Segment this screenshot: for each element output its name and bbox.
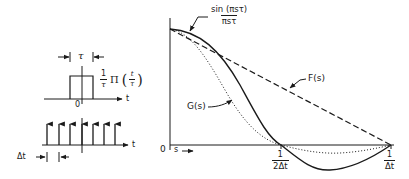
sinc-curve: [170, 29, 391, 153]
impulse-train-graph: [36, 118, 128, 162]
tick-full-numerator: 1: [386, 150, 393, 160]
G-label: G(s): [187, 102, 206, 111]
spectrum-origin-label: 0: [160, 145, 166, 154]
sinc-label-numerator: sin (πsτ): [210, 5, 248, 15]
sinc-label-denominator: πsτ: [221, 15, 238, 26]
rect-pulse-function-label: 1 τ Π ( t τ ): [100, 70, 143, 89]
pi-rect-symbol: Π: [110, 75, 119, 85]
rect-pulse-t-label: t: [126, 95, 129, 103]
impulse-train-t-label: t: [132, 141, 135, 149]
left-paren: (: [122, 73, 127, 87]
coef-numerator: 1: [100, 70, 107, 79]
G-leader-arrow: [208, 100, 232, 107]
delta-t-label: Δt: [17, 153, 26, 161]
right-paren: ): [137, 73, 142, 87]
sinc-label: sin (πsτ) πsτ: [210, 5, 248, 25]
one-over-tau: 1 τ: [100, 70, 107, 89]
F-curve: [170, 29, 391, 145]
tick-label-half: 1 2Δt: [272, 150, 289, 170]
t-over-tau: t τ: [129, 71, 135, 88]
tau-width-label: τ: [78, 51, 84, 61]
coef-denominator: τ: [100, 79, 106, 89]
tick-full-denominator: Δt: [384, 160, 395, 171]
F-leader-arrow: [290, 79, 306, 88]
tick-half-denominator: 2Δt: [272, 160, 289, 171]
tick-label-full: 1 Δt: [384, 150, 395, 170]
spectrum-plot: [170, 17, 394, 170]
sinc-leader-arrow: [190, 17, 208, 31]
arg-numerator: t: [130, 71, 135, 79]
spectrum-s-label: s: [174, 146, 178, 154]
diagram-canvas: [0, 0, 409, 179]
rect-pulse-origin-label: 0: [75, 101, 80, 109]
arg-denominator: τ: [129, 79, 135, 88]
F-label: F(s): [308, 74, 325, 83]
tick-half-numerator: 1: [277, 150, 284, 160]
